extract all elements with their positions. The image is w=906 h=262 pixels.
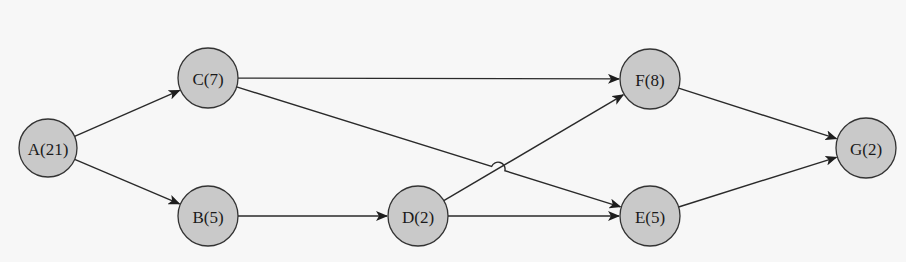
node-label: G(2) <box>850 140 882 159</box>
node-f: F(8) <box>620 49 680 109</box>
node-a: A(21) <box>19 119 77 177</box>
node-label: A(21) <box>28 140 69 159</box>
edge-a-to-b <box>75 159 180 204</box>
node-b: B(5) <box>178 186 238 246</box>
node-d: D(2) <box>388 186 448 246</box>
node-label: D(2) <box>402 208 434 227</box>
node-g: G(2) <box>836 118 896 178</box>
edge-f-to-g <box>679 88 837 139</box>
node-e: E(5) <box>620 186 680 246</box>
node-label: C(7) <box>192 70 223 89</box>
edge-e-to-g <box>679 157 837 207</box>
node-label: F(8) <box>635 71 664 90</box>
edge-c-to-f <box>238 78 619 79</box>
node-label: E(5) <box>635 208 665 227</box>
node-label: B(5) <box>192 208 223 227</box>
edge-d-to-f <box>444 95 624 201</box>
node-c: C(7) <box>178 48 238 108</box>
edge-a-to-c <box>75 90 180 136</box>
network-diagram: A(21)C(7)B(5)D(2)F(8)E(5)G(2) <box>0 0 906 262</box>
